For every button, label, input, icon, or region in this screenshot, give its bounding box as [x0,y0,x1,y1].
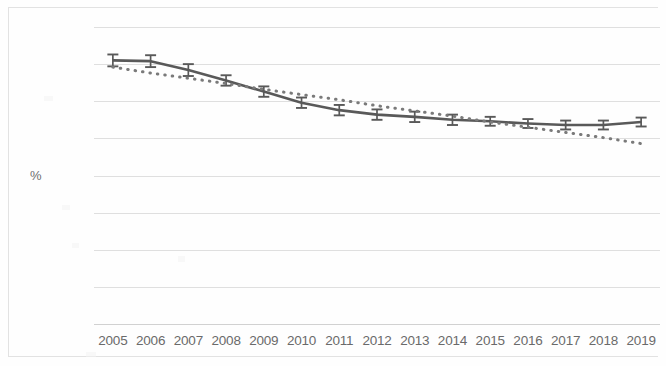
x-tick-label: 2013 [396,333,434,357]
data-series-layer [94,27,660,324]
x-tick-label: 2018 [585,333,623,357]
x-tick-label: 2014 [434,333,472,357]
trendline-dotted [113,67,641,143]
x-axis-tick-labels: 2005200620072008200920102011201220132014… [94,333,660,357]
error-bars [107,54,646,129]
x-tick-label: 2005 [94,333,132,357]
x-tick-label: 2006 [132,333,170,357]
x-tick-label: 2017 [547,333,585,357]
x-tick-label: 2008 [207,333,245,357]
x-tick-label: 2010 [283,333,321,357]
x-tick-label: 2007 [169,333,207,357]
chart-figure: % 43.532.521.510.50 20052006200720082009… [0,0,666,366]
scan-artifact [72,243,79,248]
x-tick-label: 2015 [471,333,509,357]
x-tick-label: 2016 [509,333,547,357]
y-axis-title: % [30,168,42,183]
gridline-0 [94,324,660,325]
x-tick-label: 2009 [245,333,283,357]
x-tick-label: 2019 [622,333,660,357]
x-tick-label: 2011 [320,333,358,357]
plot-area: 43.532.521.510.50 [94,27,660,324]
scan-artifact [62,205,70,210]
x-tick-label: 2012 [358,333,396,357]
scan-artifact [44,96,53,101]
